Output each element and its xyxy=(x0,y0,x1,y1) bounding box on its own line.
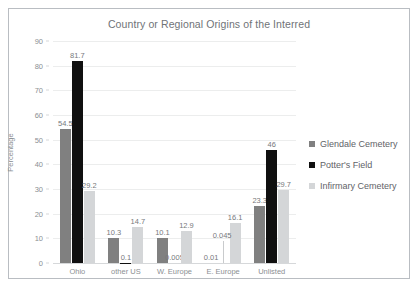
x-tick-ohio: Ohio xyxy=(69,267,85,276)
y-tickmark-0 xyxy=(46,263,49,264)
legend-label: Potter's Field xyxy=(320,160,372,170)
bar[interactable] xyxy=(72,61,83,263)
legend-item[interactable]: Potter's Field xyxy=(309,160,419,170)
bar[interactable] xyxy=(108,238,119,263)
legend-item[interactable]: Glendale Cemetery xyxy=(309,139,419,149)
x-tick-e-europe: E. Europe xyxy=(206,267,239,276)
bar-value-label: 29.7 xyxy=(276,180,291,189)
y-tick-40: 40 xyxy=(35,160,43,169)
y-tickmark-10 xyxy=(46,238,49,239)
bar-group-e-europe: 0.0116.10.045 xyxy=(206,41,241,263)
y-tick-80: 80 xyxy=(35,61,43,70)
bar-value-label: 16.1 xyxy=(228,213,243,222)
legend-swatch-icon xyxy=(309,141,315,147)
bar[interactable] xyxy=(230,223,241,263)
bar[interactable] xyxy=(278,190,289,263)
y-tickmark-60 xyxy=(46,115,49,116)
x-tick-w-europe: W. Europe xyxy=(157,267,192,276)
y-tick-70: 70 xyxy=(35,86,43,95)
y-tick-50: 50 xyxy=(35,135,43,144)
bar[interactable] xyxy=(132,227,143,263)
y-tickmark-20 xyxy=(46,213,49,214)
y-tick-20: 20 xyxy=(35,209,43,218)
bar-group-unlisted: 23.34629.7 xyxy=(254,41,289,263)
y-tickmark-90 xyxy=(46,41,49,42)
bar[interactable] xyxy=(60,129,71,263)
chart-frame: Country or Regional Origins of the Inter… xyxy=(8,8,410,279)
y-axis-tick-labels: 0102030405060708090 xyxy=(9,41,49,263)
y-tick-30: 30 xyxy=(35,185,43,194)
bar-group-ohio: 54.581.729.2 xyxy=(60,41,95,263)
bar-value-label: 10.3 xyxy=(107,228,122,237)
plot-area: 54.581.729.210.30.114.710.10.00512.90.01… xyxy=(53,41,296,263)
bar-group-w-europe: 10.10.00512.9 xyxy=(157,41,192,263)
bar-value-label: 54.5 xyxy=(58,119,73,128)
y-tickmark-50 xyxy=(46,139,49,140)
y-tickmark-70 xyxy=(46,90,49,91)
bar-group-other-us: 10.30.114.7 xyxy=(108,41,143,263)
y-tickmark-80 xyxy=(46,65,49,66)
legend-label: Glendale Cemetery xyxy=(320,139,398,149)
legend-swatch-icon xyxy=(309,183,315,189)
bar[interactable] xyxy=(181,231,192,263)
chart-legend: Glendale CemeteryPotter's FieldInfirmary… xyxy=(309,139,419,202)
y-tickmark-40 xyxy=(46,164,49,165)
bar[interactable] xyxy=(84,191,95,263)
bar[interactable] xyxy=(254,206,265,263)
bar-value-label: 0.045 xyxy=(213,231,232,240)
y-tick-10: 10 xyxy=(35,234,43,243)
y-tick-0: 0 xyxy=(39,259,43,268)
bar-value-label: 0.1 xyxy=(121,253,131,262)
x-tick-other-us: other US xyxy=(111,267,141,276)
bar-value-label: 46 xyxy=(268,140,276,149)
bar-sliver[interactable] xyxy=(223,241,224,263)
bar-value-label: 0.01 xyxy=(204,253,219,262)
y-tick-90: 90 xyxy=(35,37,43,46)
y-tickmark-30 xyxy=(46,189,49,190)
legend-item[interactable]: Infirmary Cemetery xyxy=(309,181,419,191)
bar-value-label: 12.9 xyxy=(179,221,194,230)
gridline-0 xyxy=(53,263,296,264)
bar[interactable] xyxy=(266,150,277,263)
bar-value-label: 14.7 xyxy=(131,217,146,226)
y-tick-60: 60 xyxy=(35,111,43,120)
x-tick-unlisted: Unlisted xyxy=(258,267,285,276)
bar-value-label: 81.7 xyxy=(70,51,85,60)
bar-value-label: 29.2 xyxy=(82,181,97,190)
legend-swatch-icon xyxy=(309,162,315,168)
bar-value-label: 23.3 xyxy=(252,196,267,205)
chart-title: Country or Regional Origins of the Inter… xyxy=(9,18,409,30)
legend-label: Infirmary Cemetery xyxy=(320,181,397,191)
bar-value-label: 10.1 xyxy=(155,228,170,237)
